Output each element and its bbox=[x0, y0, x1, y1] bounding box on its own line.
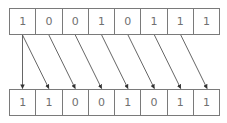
bottom-bit-cell-6: 1 bbox=[168, 90, 194, 115]
bottom-bit-row: 1 1 0 0 1 0 1 1 bbox=[9, 89, 220, 116]
top-bit-cell-4: 0 bbox=[115, 9, 141, 34]
top-bit-cell-7: 1 bbox=[194, 9, 219, 34]
shift-arrow-7 bbox=[181, 35, 207, 89]
bottom-bit-cell-7: 1 bbox=[194, 90, 219, 115]
top-bit-cell-5: 1 bbox=[141, 9, 167, 34]
bottom-bit-cell-4: 1 bbox=[115, 90, 141, 115]
shift-arrow-2 bbox=[49, 35, 75, 89]
bottom-bit-cell-3: 0 bbox=[89, 90, 115, 115]
bottom-bit-cell-0: 1 bbox=[10, 90, 36, 115]
top-bit-cell-2: 0 bbox=[63, 9, 89, 34]
bottom-bit-cell-5: 0 bbox=[141, 90, 167, 115]
top-bit-cell-3: 1 bbox=[89, 9, 115, 34]
shift-arrow-5 bbox=[128, 35, 154, 89]
top-bit-cell-1: 0 bbox=[36, 9, 62, 34]
bottom-bit-cell-1: 1 bbox=[36, 90, 62, 115]
shift-arrow-4 bbox=[102, 35, 128, 89]
top-bit-row: 1 0 0 1 0 1 1 1 bbox=[9, 8, 220, 35]
shift-arrow-3 bbox=[75, 35, 101, 89]
bottom-bit-cell-2: 0 bbox=[63, 90, 89, 115]
top-bit-cell-6: 1 bbox=[168, 9, 194, 34]
shift-arrow-1 bbox=[23, 35, 49, 89]
top-bit-cell-0: 1 bbox=[10, 9, 36, 34]
shift-arrow-6 bbox=[154, 35, 180, 89]
